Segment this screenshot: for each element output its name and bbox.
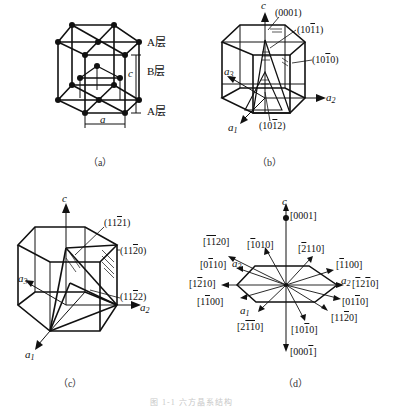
layer-label-a-bottom: A层 — [147, 106, 166, 117]
dir-bar1010: [1010] — [247, 240, 274, 250]
dir-0001: [0001] — [290, 211, 317, 221]
plane-11-21: (1121) — [104, 218, 130, 228]
dir-0bar110: [0110] — [200, 260, 226, 270]
axis-a3-label-d: a3 — [232, 258, 242, 271]
axis-a1-label-c: a1 — [25, 349, 35, 362]
dir-bar1bar120: [1120] — [203, 237, 229, 247]
dir-1bar210: [1210] — [189, 279, 216, 289]
caption-a: （a） — [88, 154, 112, 169]
plane-10-12: (1012) — [259, 121, 286, 131]
axis-a2-label-d: a2 — [341, 275, 351, 288]
figure-caption: 图 1-1 六方晶系结构 — [150, 396, 233, 407]
axis-a1-label-b: a1 — [228, 122, 238, 135]
dir-10bar10: [1010] — [291, 325, 318, 335]
dir-2bar1bar10: [2110] — [237, 322, 263, 332]
axis-a-label-a: a — [100, 114, 106, 125]
axis-a2-label-c: a2 — [140, 302, 150, 315]
dir-000bar1: [0001] — [290, 347, 317, 357]
plane-10-10: (1010) — [312, 55, 339, 65]
caption-d: （d） — [283, 375, 308, 390]
plane-10-11: (1011) — [297, 25, 323, 35]
hex-prism-c — [18, 210, 135, 345]
plane-0001: (0001) — [275, 8, 302, 18]
axis-c-label-c: c — [62, 193, 67, 204]
axis-a2-label-b: a2 — [326, 92, 336, 105]
dir-11bar20: [1120] — [331, 313, 357, 323]
axis-a1-label-d: a1 — [240, 305, 250, 318]
dir-bar2110: [2110] — [298, 244, 324, 254]
dir-1bar100: [1100] — [197, 297, 223, 307]
caption-c: （c） — [58, 375, 82, 390]
axis-c-label-b: c — [261, 0, 266, 11]
caption-b: （b） — [257, 154, 282, 169]
dir-bar12bar10: [1210] — [352, 279, 379, 289]
dir-01bar10: [0110] — [342, 297, 368, 307]
plane-11-20: (1120) — [120, 246, 146, 256]
axis-a3-label-c: a3 — [18, 273, 28, 286]
axis-a3-label-b: a3 — [224, 66, 234, 79]
dir-bar1100: [1100] — [336, 260, 362, 270]
layer-label-a-top: A层 — [147, 37, 166, 48]
axis-c-label-a: c — [128, 68, 133, 79]
layer-label-b: B层 — [147, 66, 165, 77]
axis-c-label-d: c — [282, 196, 287, 207]
